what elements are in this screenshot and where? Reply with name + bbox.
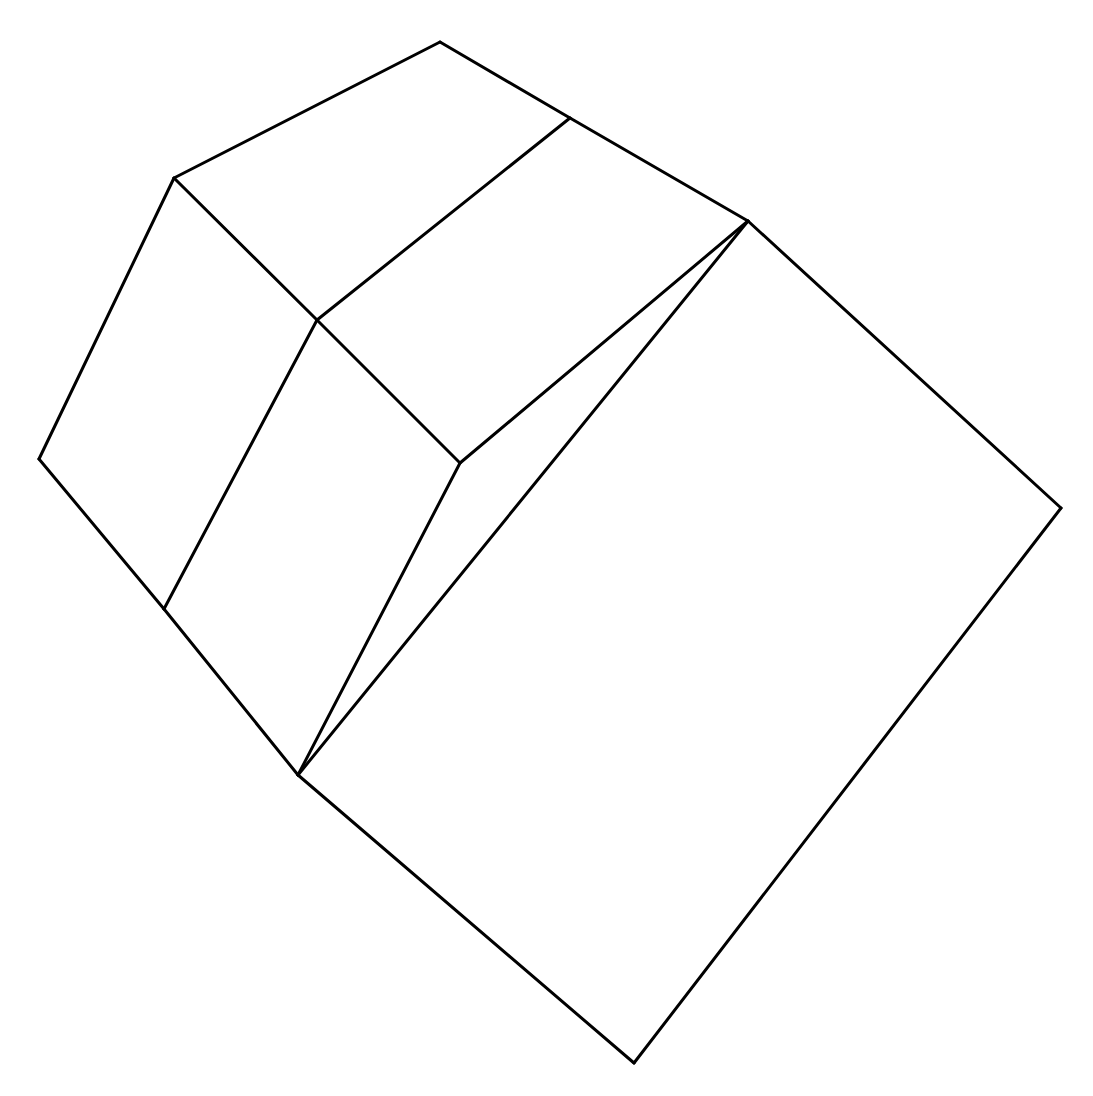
edge-DI (298, 221, 748, 775)
edge-IK (298, 775, 634, 1063)
edge-FI (298, 463, 460, 775)
edge-JK (634, 508, 1061, 1063)
edge-HI (164, 609, 298, 775)
edge-BE (174, 178, 317, 320)
edge-AB (174, 42, 440, 178)
edge-DJ (748, 221, 1061, 508)
polyhedron-diagram (0, 0, 1093, 1096)
edge-GH (39, 459, 164, 609)
edge-EF (317, 320, 460, 463)
edge-EH (164, 320, 317, 609)
edge-CD (570, 118, 748, 221)
edge-FD (460, 221, 748, 463)
edge-EC (317, 118, 570, 320)
edge-BG (39, 178, 174, 459)
polyhedron-edges (39, 42, 1061, 1063)
edge-AC (440, 42, 570, 118)
